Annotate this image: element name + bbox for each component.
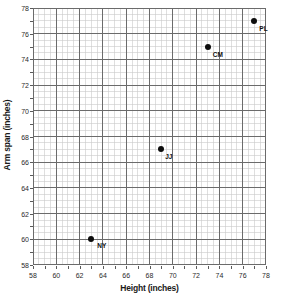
data-point-label: NY <box>97 243 106 250</box>
y-tick-mark <box>30 111 33 112</box>
y-tick-mark <box>30 34 33 35</box>
data-point-label: JJ <box>165 154 172 161</box>
x-tick-mark <box>138 266 139 269</box>
y-tick-mark <box>30 149 33 150</box>
y-tick-mark <box>30 252 33 253</box>
data-point[interactable] <box>158 146 164 152</box>
x-tick-mark <box>231 266 232 269</box>
x-tick-mark <box>56 266 57 269</box>
x-tick-mark <box>184 266 185 269</box>
x-tick-mark <box>196 266 197 269</box>
x-tick-mark <box>103 266 104 269</box>
x-tick-mark <box>33 266 34 269</box>
y-tick-mark <box>30 239 33 240</box>
y-tick-mark <box>30 98 33 99</box>
x-tick-mark <box>173 266 174 269</box>
y-tick-label: 66 <box>21 159 29 166</box>
data-point[interactable] <box>88 236 94 242</box>
y-tick-mark <box>30 226 33 227</box>
x-tick-mark <box>243 266 244 269</box>
x-tick-label: 60 <box>52 272 60 279</box>
x-tick-label: 64 <box>99 272 107 279</box>
y-tick-label: 64 <box>21 184 29 191</box>
y-tick-label: 78 <box>21 5 29 12</box>
y-tick-mark <box>30 214 33 215</box>
x-tick-mark <box>208 266 209 269</box>
data-points-layer: NYJJCMPL <box>33 8 266 265</box>
y-tick-label: 74 <box>21 56 29 63</box>
plot-area: NYJJCMPL <box>33 8 266 265</box>
x-tick-label: 70 <box>169 272 177 279</box>
x-tick-mark <box>219 266 220 269</box>
x-tick-label: 62 <box>76 272 84 279</box>
data-point-label: PL <box>259 26 267 33</box>
y-tick-mark <box>30 124 33 125</box>
x-tick-mark <box>68 266 69 269</box>
x-tick-label: 68 <box>146 272 154 279</box>
y-axis-tick-labels: 7876747270686664626058 <box>14 0 31 298</box>
x-tick-mark <box>80 266 81 269</box>
x-tick-mark <box>126 266 127 269</box>
y-tick-label: 58 <box>21 262 29 269</box>
data-point[interactable] <box>205 44 211 50</box>
y-tick-mark <box>30 175 33 176</box>
x-tick-mark <box>150 266 151 269</box>
x-tick-label: 66 <box>122 272 130 279</box>
y-tick-label: 68 <box>21 133 29 140</box>
data-point-label: CM <box>213 52 223 59</box>
x-tick-mark <box>91 266 92 269</box>
x-tick-label: 72 <box>192 272 200 279</box>
x-tick-mark <box>161 266 162 269</box>
y-tick-mark <box>30 188 33 189</box>
x-tick-mark <box>115 266 116 269</box>
y-tick-mark <box>30 137 33 138</box>
y-tick-label: 76 <box>21 30 29 37</box>
y-tick-label: 70 <box>21 107 29 114</box>
x-tick-label: 78 <box>262 272 270 279</box>
y-tick-label: 72 <box>21 82 29 89</box>
x-tick-mark <box>266 266 267 269</box>
x-tick-mark <box>254 266 255 269</box>
y-tick-label: 62 <box>21 210 29 217</box>
y-tick-mark <box>30 21 33 22</box>
y-tick-label: 60 <box>21 236 29 243</box>
y-tick-mark <box>30 201 33 202</box>
y-tick-mark <box>30 85 33 86</box>
y-tick-mark <box>30 47 33 48</box>
y-axis-title: Arm span (inches) <box>0 0 14 270</box>
x-tick-label: 74 <box>215 272 223 279</box>
y-tick-mark <box>30 59 33 60</box>
y-axis-title-text: Arm span (inches) <box>2 100 12 171</box>
y-tick-mark <box>30 72 33 73</box>
x-tick-label: 76 <box>239 272 247 279</box>
data-point[interactable] <box>251 18 257 24</box>
y-tick-mark <box>30 8 33 9</box>
x-tick-mark <box>45 266 46 269</box>
y-tick-mark <box>30 162 33 163</box>
x-axis-title: Height (inches) <box>33 283 266 293</box>
scatter-chart: Arm span (inches) 7876747270686664626058… <box>0 0 281 298</box>
